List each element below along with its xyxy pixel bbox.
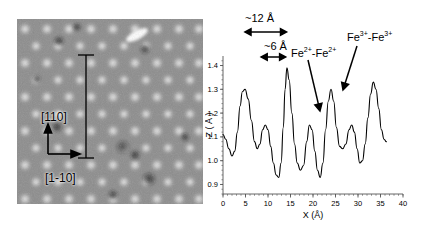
direction-label-110: [110] xyxy=(41,110,67,124)
x-tick-label: 0 xyxy=(221,199,225,208)
annotation-arrows xyxy=(245,29,357,111)
spacing-6-label: ~6 Å xyxy=(264,40,287,52)
x-tick-label: 20 xyxy=(309,199,317,208)
y-axis-title: Z ( Å ) xyxy=(205,113,214,138)
y-tick-label: 1.3 xyxy=(208,85,218,94)
x-tick-label: 35 xyxy=(376,199,384,208)
figure-container: [110] [1-10] 0.91.01.11.21.31.4 05101520… xyxy=(0,0,431,234)
line-profile-chart: 0.91.01.11.21.31.4 0510152025303540 X (Å… xyxy=(205,6,429,232)
fe3-fe3-arrow xyxy=(342,46,357,90)
x-tick-label: 5 xyxy=(243,199,247,208)
stm-topograph-panel: [110] [1-10] xyxy=(17,19,203,204)
chart-axes xyxy=(223,56,403,194)
fe2-fe2-label: Fe2+-Fe2+ xyxy=(291,46,336,59)
fe3-base-2: Fe xyxy=(372,31,385,43)
spacing-12-arrow xyxy=(245,29,287,35)
x-axis-title: X (Å) xyxy=(303,210,324,220)
line-profile-panel: 0.91.01.11.21.31.4 0510152025303540 X (Å… xyxy=(205,6,429,232)
fe2-sup-2: 2+ xyxy=(328,46,336,53)
y-tick-label: 0.9 xyxy=(208,180,218,189)
fe3-sup-1: 3+ xyxy=(360,30,368,37)
x-axis-ticks xyxy=(223,194,403,198)
fe3-sup-2: 3+ xyxy=(384,30,392,37)
x-tick-label: 40 xyxy=(399,199,407,208)
x-tick-label: 15 xyxy=(286,199,294,208)
spacing-12-label: ~12 Å xyxy=(245,12,274,24)
fe2-fe2-arrow xyxy=(308,60,322,111)
direction-label-1-10: [1-10] xyxy=(45,171,76,185)
fe3-base-1: Fe xyxy=(347,31,360,43)
x-tick-label: 30 xyxy=(354,199,362,208)
fe3-fe3-label: Fe3+-Fe3+ xyxy=(347,30,392,43)
spacing-6-arrow xyxy=(261,54,285,60)
y-tick-label: 1.0 xyxy=(208,156,218,165)
fe2-base-1: Fe xyxy=(291,47,304,59)
x-tick-label: 10 xyxy=(264,199,272,208)
height-profile-curve xyxy=(223,68,386,177)
fe2-base-2: Fe xyxy=(316,47,329,59)
fe2-sup-1: 2+ xyxy=(304,46,312,53)
y-tick-label: 1.4 xyxy=(208,61,218,70)
x-axis-tick-labels: 0510152025303540 xyxy=(221,199,407,208)
x-tick-label: 25 xyxy=(331,199,339,208)
